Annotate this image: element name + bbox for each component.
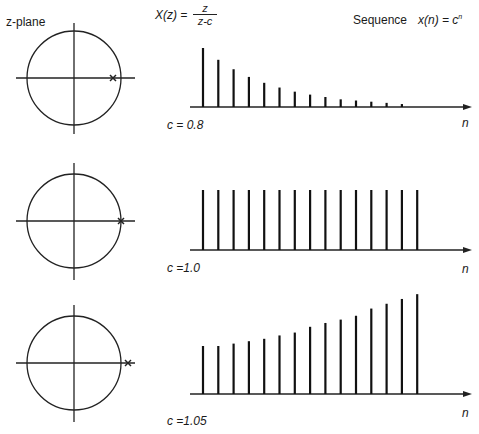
c-label-3: c =1.05: [167, 414, 207, 428]
zplane-2: [16, 163, 135, 280]
transform-denominator: z-c: [193, 15, 217, 27]
n-label-3: n: [462, 406, 469, 420]
stems-panel-3: [203, 294, 417, 394]
stems-panel-2: [203, 190, 417, 250]
n-label-1: n: [462, 116, 469, 130]
stems-panel-1: [203, 48, 402, 107]
c-label-1: c = 0.8: [167, 118, 203, 132]
zplane-3: [16, 305, 135, 422]
transform-lhs: X(z) =: [155, 8, 187, 22]
axes: [190, 107, 466, 394]
transform-numerator: z: [193, 2, 217, 15]
c-label-2: c =1.0: [167, 261, 200, 275]
figure-canvas: [0, 0, 479, 434]
arrow-icons: [463, 104, 472, 397]
n-label-2: n: [462, 262, 469, 276]
zplane-label: z-plane: [6, 15, 45, 29]
sequence-formula: x(n) = cn: [418, 13, 462, 27]
sequence-label: Sequence: [353, 13, 407, 27]
zplane-1: [16, 23, 135, 134]
